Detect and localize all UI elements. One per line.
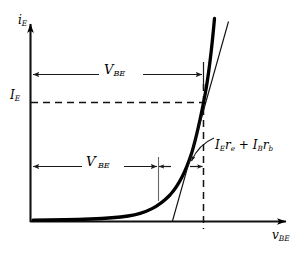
- vbe-dimension-label: VBE: [104, 63, 125, 76]
- y-axis-label: iE: [18, 14, 27, 26]
- operating-point-current-label: IE: [10, 89, 20, 101]
- exponential-characteristic-curve: [33, 19, 215, 221]
- curves: [33, 19, 229, 222]
- figure-canvas: [0, 0, 304, 253]
- vbe-prime-dimension-label: V′BE: [86, 155, 110, 168]
- ohmic-drop-label: IEre + IBrb: [215, 139, 273, 151]
- x-axis-label: vBE: [272, 229, 290, 241]
- transistor-input-characteristic-figure: iE vBE IE VBE V′BE IEre + IBrb: [0, 0, 304, 253]
- prime-glyph: ′: [95, 154, 98, 167]
- guide-lines: [31, 84, 207, 229]
- tangent-line: [173, 22, 229, 222]
